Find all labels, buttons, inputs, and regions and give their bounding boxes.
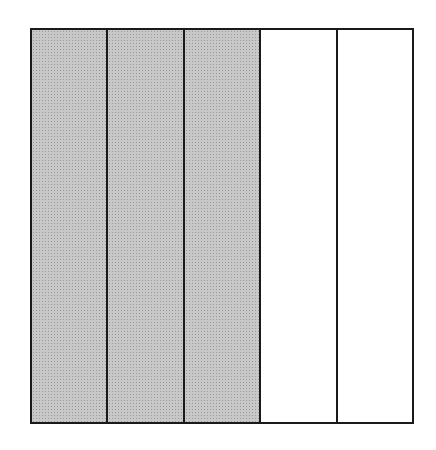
shaded-part xyxy=(108,30,184,422)
shaded-part xyxy=(185,30,261,422)
fraction-rectangle xyxy=(30,28,414,424)
shaded-part xyxy=(32,30,108,422)
unshaded-part xyxy=(261,30,337,422)
unshaded-part xyxy=(338,30,412,422)
